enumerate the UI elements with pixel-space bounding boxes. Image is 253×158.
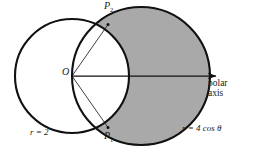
theta-symbol: θ xyxy=(217,123,221,133)
point-p2-subscript: 2 xyxy=(110,6,113,13)
point-p1-subscript: 1 xyxy=(110,136,113,143)
origin-label: O xyxy=(62,67,69,78)
polar-curves-figure: O P2 P1 r = 2 r = 4 cos θ polaraxis xyxy=(0,0,253,158)
polar-axis-label: polaraxis xyxy=(208,79,228,99)
curve-left-label: r = 2 xyxy=(30,128,49,137)
curve-right-prefix: r = 4 cos xyxy=(182,123,217,133)
point-p1-label: P1 xyxy=(104,131,113,144)
polar-axis-line-2: axis xyxy=(208,89,228,99)
point-p2-label: P2 xyxy=(104,1,113,14)
curve-right-label: r = 4 cos θ xyxy=(182,124,222,133)
